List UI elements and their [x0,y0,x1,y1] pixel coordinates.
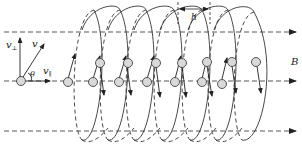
particle [218,80,227,89]
particle [124,59,133,68]
helix-loops [74,6,267,142]
label-field: B [290,56,298,67]
label-pitch: h [191,12,197,22]
particle [171,78,180,87]
helix-loop [74,10,102,140]
helix-loop [134,6,182,140]
helix-loop [108,6,154,140]
helix-loop [214,7,267,141]
helix-loop [160,6,210,140]
particle-origin [17,77,26,86]
particles [17,58,261,89]
label-v-par: v∥ [43,65,52,77]
particle [228,58,237,67]
particle [178,59,187,68]
particle [198,78,207,87]
particle [152,59,161,68]
particle [203,58,212,67]
particle [115,78,124,87]
particle [89,78,98,87]
label-v: v [32,38,38,49]
particle [252,58,261,67]
particle [96,59,105,68]
helix-diagram: v⊥ v v∥ θ h B [0,0,302,145]
particle [143,78,152,87]
label-theta: θ [30,70,35,79]
particle [64,78,73,87]
label-v-perp: v⊥ [6,39,17,51]
helix-loop [188,6,236,140]
